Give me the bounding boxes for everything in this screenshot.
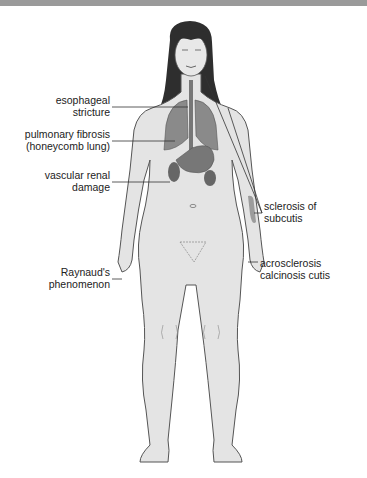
body-illustration	[0, 0, 367, 478]
label-sclerosis-of-subcutis: sclerosis of subcutis	[264, 200, 354, 224]
esophagus	[189, 80, 193, 150]
label-acrosclerosis-calcinosis: acrosclerosis calcinosis cutis	[260, 257, 360, 281]
label-raynauds-phenomenon: Raynaud's phenomenon	[20, 266, 110, 290]
kidney-left	[204, 170, 216, 186]
face	[175, 34, 207, 76]
kidney-right	[168, 162, 180, 182]
label-vascular-renal-damage: vascular renal damage	[20, 169, 110, 193]
label-esophageal-stricture: esophageal stricture	[30, 94, 110, 118]
label-pulmonary-fibrosis: pulmonary fibrosis (honeycomb lung)	[10, 128, 110, 152]
